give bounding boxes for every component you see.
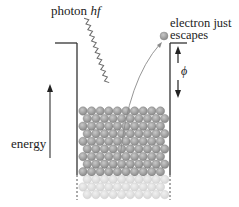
atom-icon: [139, 137, 147, 145]
atom-icon: [122, 168, 130, 176]
atom-icon: [152, 145, 160, 153]
atom-icon: [161, 114, 169, 122]
atom-icon: [122, 137, 130, 145]
atom-icon: [122, 183, 130, 191]
atom-icon: [87, 152, 95, 160]
atom-icon: [100, 190, 108, 198]
atom-icon: [152, 160, 160, 168]
atom-icon: [105, 137, 113, 145]
atom-icon: [135, 114, 143, 122]
atom-lattice: [79, 107, 169, 199]
atom-icon: [113, 137, 121, 145]
atom-icon: [161, 145, 169, 153]
atom-icon: [113, 183, 121, 191]
atom-icon: [130, 168, 138, 176]
atom-icon: [130, 152, 138, 160]
atom-icon: [126, 114, 134, 122]
atom-icon: [100, 160, 108, 168]
atom-icon: [135, 145, 143, 153]
atom-icon: [156, 137, 164, 145]
atom-icon: [148, 152, 156, 160]
atom-icon: [109, 114, 117, 122]
atom-icon: [152, 175, 160, 183]
atom-icon: [96, 152, 104, 160]
work-function-label: ϕ: [181, 65, 187, 77]
atom-icon: [109, 145, 117, 153]
atom-icon: [118, 114, 126, 122]
atom-icon: [96, 137, 104, 145]
atom-icon: [126, 175, 134, 183]
atom-icon: [109, 160, 117, 168]
atom-icon: [100, 114, 108, 122]
atom-icon: [118, 160, 126, 168]
atom-icon: [105, 122, 113, 130]
atom-icon: [79, 168, 87, 176]
atom-icon: [143, 130, 151, 138]
atom-icon: [100, 175, 108, 183]
atom-icon: [161, 190, 169, 198]
atom-icon: [143, 160, 151, 168]
energy-axis-arrow: [47, 84, 53, 158]
atom-icon: [92, 114, 100, 122]
atom-icon: [139, 107, 147, 115]
atom-icon: [92, 160, 100, 168]
atom-icon: [79, 122, 87, 130]
energy-label: energy: [11, 137, 46, 150]
atom-icon: [118, 175, 126, 183]
atom-icon: [96, 183, 104, 191]
atom-icon: [135, 130, 143, 138]
atom-icon: [83, 175, 91, 183]
atom-icon: [130, 183, 138, 191]
atom-icon: [135, 160, 143, 168]
atom-icon: [161, 160, 169, 168]
atom-icon: [139, 122, 147, 130]
atom-icon: [113, 122, 121, 130]
atom-icon: [148, 122, 156, 130]
atom-icon: [83, 130, 91, 138]
atom-icon: [87, 137, 95, 145]
atom-icon: [92, 145, 100, 153]
atom-icon: [87, 122, 95, 130]
atom-icon: [156, 107, 164, 115]
atom-icon: [79, 137, 87, 145]
atom-icon: [109, 130, 117, 138]
atom-icon: [130, 122, 138, 130]
atom-icon: [83, 190, 91, 198]
atom-icon: [87, 183, 95, 191]
atom-icon: [105, 107, 113, 115]
atom-icon: [83, 160, 91, 168]
atom-icon: [79, 152, 87, 160]
photon-label: photon hf: [51, 4, 101, 17]
photon-wave-icon: [84, 17, 109, 84]
atom-icon: [148, 183, 156, 191]
atom-icon: [143, 190, 151, 198]
photoelectric-diagram: photon hf electron just escapes energy ϕ: [0, 0, 239, 207]
electron-escapes-label: electron just escapes: [170, 17, 231, 41]
atom-icon: [100, 145, 108, 153]
atom-icon: [96, 168, 104, 176]
atom-icon: [105, 152, 113, 160]
atom-icon: [105, 183, 113, 191]
electron-icon: [160, 32, 168, 40]
atom-icon: [83, 114, 91, 122]
atom-icon: [152, 114, 160, 122]
atom-icon: [92, 130, 100, 138]
atom-icon: [139, 183, 147, 191]
atom-icon: [105, 168, 113, 176]
atom-icon: [156, 183, 164, 191]
atom-icon: [156, 168, 164, 176]
atom-icon: [122, 122, 130, 130]
atom-icon: [143, 145, 151, 153]
atom-icon: [87, 107, 95, 115]
atom-icon: [126, 130, 134, 138]
atom-icon: [109, 175, 117, 183]
atom-icon: [130, 137, 138, 145]
atom-icon: [143, 175, 151, 183]
atom-icon: [130, 107, 138, 115]
atom-icon: [135, 190, 143, 198]
atom-icon: [79, 107, 87, 115]
atom-icon: [156, 152, 164, 160]
atom-icon: [126, 145, 134, 153]
atom-icon: [109, 190, 117, 198]
atom-icon: [79, 183, 87, 191]
